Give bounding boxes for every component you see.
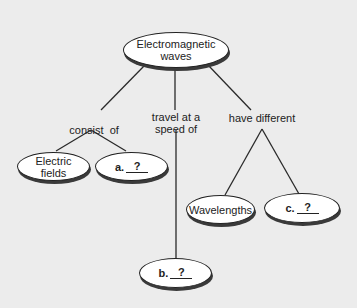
link-label-consist-of: consist of [61, 112, 121, 136]
travel-text-line1: travel at a [146, 111, 206, 123]
node-blank-c: c. ? [264, 193, 340, 223]
electric-fields-line2: fields [41, 167, 67, 179]
blank-c-answer: ? [297, 202, 319, 214]
consist-of-text: consist of [69, 124, 119, 136]
blank-b-answer: ? [170, 267, 192, 279]
blank-a-prefix: a. [115, 161, 124, 173]
root-label-line1: Electromagnetic [137, 38, 216, 50]
electric-fields-line1: Electric [35, 155, 71, 167]
node-blank-b: b. ? [139, 258, 212, 288]
link-label-have-different: have different [222, 112, 302, 124]
wavelengths-label: Wavelengths [189, 204, 252, 216]
node-electric-fields: Electric fields [17, 152, 90, 181]
have-different-text: have different [229, 112, 295, 124]
node-electromagnetic-waves: Electromagnetic waves [123, 32, 229, 68]
link-label-travel-speed: travel at a speed of [146, 111, 206, 135]
blank-b-prefix: b. [159, 267, 169, 279]
blank-a-answer: ? [126, 161, 148, 173]
travel-text-line2: speed of [146, 123, 206, 135]
blank-c-prefix: c. [285, 202, 294, 214]
root-label-line2: waves [160, 50, 191, 62]
node-wavelengths: Wavelengths [186, 195, 255, 224]
node-blank-a: a. ? [95, 152, 168, 181]
